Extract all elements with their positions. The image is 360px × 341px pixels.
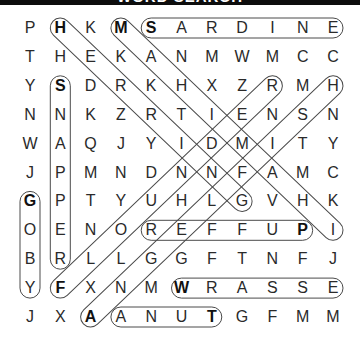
grid-letter[interactable]: A <box>260 162 284 184</box>
word-search-grid[interactable]: PHKMSARDINETHEKANMWMCCYSDRKHXZRMHNNKZRTI… <box>0 0 360 341</box>
grid-letter[interactable]: B <box>18 248 42 270</box>
grid-letter[interactable]: H <box>291 190 315 212</box>
grid-letter[interactable]: N <box>260 104 284 126</box>
grid-letter[interactable]: H <box>170 190 194 212</box>
grid-letter[interactable]: I <box>170 133 194 155</box>
grid-letter[interactable]: N <box>139 306 163 328</box>
grid-letter[interactable]: G <box>230 190 254 212</box>
grid-letter[interactable]: M <box>200 46 224 68</box>
grid-letter[interactable]: F <box>230 162 254 184</box>
grid-letter[interactable]: H <box>48 46 72 68</box>
grid-letter[interactable]: M <box>139 277 163 299</box>
grid-letter[interactable]: K <box>139 75 163 97</box>
grid-letter[interactable]: R <box>139 104 163 126</box>
grid-letter[interactable]: G <box>230 306 254 328</box>
grid-letter[interactable]: M <box>230 133 254 155</box>
grid-letter[interactable]: R <box>200 17 224 39</box>
grid-letter[interactable]: N <box>260 248 284 270</box>
grid-letter[interactable]: M <box>260 46 284 68</box>
grid-letter[interactable]: I <box>260 133 284 155</box>
grid-letter[interactable]: S <box>291 277 315 299</box>
grid-letter[interactable]: S <box>139 17 163 39</box>
grid-letter[interactable]: F <box>260 306 284 328</box>
grid-letter[interactable]: O <box>109 219 133 241</box>
grid-letter[interactable]: O <box>18 219 42 241</box>
grid-letter[interactable]: F <box>48 277 72 299</box>
grid-letter[interactable]: T <box>79 190 103 212</box>
grid-letter[interactable]: T <box>230 248 254 270</box>
grid-letter[interactable]: C <box>321 162 345 184</box>
grid-letter[interactable]: M <box>291 75 315 97</box>
grid-letter[interactable]: Y <box>139 133 163 155</box>
grid-letter[interactable]: F <box>291 248 315 270</box>
grid-letter[interactable]: T <box>291 133 315 155</box>
grid-letter[interactable]: L <box>109 248 133 270</box>
grid-letter[interactable]: K <box>79 104 103 126</box>
grid-letter[interactable]: F <box>200 219 224 241</box>
grid-letter[interactable]: D <box>139 162 163 184</box>
grid-letter[interactable]: D <box>200 133 224 155</box>
grid-letter[interactable]: C <box>291 46 315 68</box>
grid-letter[interactable]: A <box>139 46 163 68</box>
grid-letter[interactable]: N <box>321 104 345 126</box>
grid-letter[interactable]: Y <box>18 277 42 299</box>
grid-letter[interactable]: T <box>170 104 194 126</box>
grid-letter[interactable]: N <box>48 104 72 126</box>
grid-letter[interactable]: M <box>291 162 315 184</box>
grid-letter[interactable]: L <box>200 190 224 212</box>
grid-letter[interactable]: J <box>18 162 42 184</box>
grid-letter[interactable]: A <box>109 306 133 328</box>
grid-letter[interactable]: G <box>139 248 163 270</box>
grid-letter[interactable]: N <box>79 219 103 241</box>
grid-letter[interactable]: R <box>48 248 72 270</box>
grid-letter[interactable]: D <box>79 75 103 97</box>
grid-letter[interactable]: X <box>48 306 72 328</box>
grid-letter[interactable]: N <box>109 277 133 299</box>
grid-letter[interactable]: Y <box>109 190 133 212</box>
grid-letter[interactable]: E <box>79 46 103 68</box>
grid-letter[interactable]: G <box>170 248 194 270</box>
grid-letter[interactable]: Z <box>230 75 254 97</box>
grid-letter[interactable]: M <box>291 306 315 328</box>
grid-letter[interactable]: X <box>200 75 224 97</box>
grid-letter[interactable]: E <box>321 277 345 299</box>
grid-letter[interactable]: R <box>109 75 133 97</box>
grid-letter[interactable]: P <box>48 162 72 184</box>
grid-letter[interactable]: M <box>321 306 345 328</box>
grid-letter[interactable]: M <box>109 17 133 39</box>
grid-letter[interactable]: F <box>200 248 224 270</box>
grid-letter[interactable]: Y <box>321 133 345 155</box>
grid-letter[interactable]: P <box>291 219 315 241</box>
grid-letter[interactable]: N <box>18 104 42 126</box>
grid-letter[interactable]: S <box>48 75 72 97</box>
grid-letter[interactable]: P <box>18 17 42 39</box>
grid-letter[interactable]: K <box>321 190 345 212</box>
grid-letter[interactable]: U <box>260 219 284 241</box>
grid-letter[interactable]: I <box>260 17 284 39</box>
grid-letter[interactable]: N <box>170 162 194 184</box>
grid-letter[interactable]: H <box>48 17 72 39</box>
grid-letter[interactable]: W <box>170 277 194 299</box>
grid-letter[interactable]: Y <box>18 75 42 97</box>
grid-letter[interactable]: S <box>260 277 284 299</box>
grid-letter[interactable]: N <box>200 162 224 184</box>
grid-letter[interactable]: S <box>291 104 315 126</box>
grid-letter[interactable]: D <box>230 17 254 39</box>
grid-letter[interactable]: N <box>170 46 194 68</box>
grid-letter[interactable]: R <box>139 219 163 241</box>
grid-letter[interactable]: E <box>321 17 345 39</box>
grid-letter[interactable]: N <box>109 162 133 184</box>
grid-letter[interactable]: J <box>109 133 133 155</box>
grid-letter[interactable]: W <box>18 133 42 155</box>
grid-letter[interactable]: M <box>79 162 103 184</box>
grid-letter[interactable]: E <box>230 104 254 126</box>
grid-letter[interactable]: H <box>321 75 345 97</box>
grid-letter[interactable]: E <box>48 219 72 241</box>
grid-letter[interactable]: A <box>230 277 254 299</box>
grid-letter[interactable]: I <box>321 219 345 241</box>
grid-letter[interactable]: P <box>48 190 72 212</box>
grid-letter[interactable]: L <box>79 248 103 270</box>
grid-letter[interactable]: T <box>200 306 224 328</box>
grid-letter[interactable]: A <box>48 133 72 155</box>
grid-letter[interactable]: U <box>170 306 194 328</box>
